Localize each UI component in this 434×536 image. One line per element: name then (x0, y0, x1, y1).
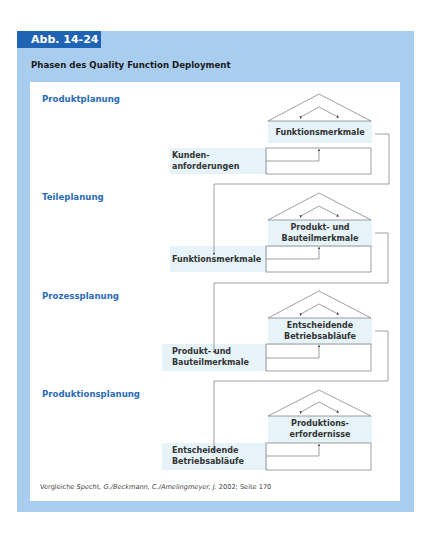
output-label-1: Funktionsmerkmale (268, 127, 372, 138)
input-label-1-line1: Kunden- (172, 150, 210, 161)
input-label-3-line2: Bauteilmerkmale (172, 357, 249, 368)
source-prefix: Vergleiche (40, 483, 77, 491)
input-label-4-line2: Betriebsabläufe (172, 456, 244, 467)
input-label-3-line1: Produkt- und (172, 346, 231, 357)
output-label-3-line1: Entscheidende (268, 320, 372, 331)
output-label-2-line2: Bauteilmerkmale (268, 233, 372, 244)
source-suffix: 2002; Seite 170 (217, 483, 272, 491)
input-label-2: Funktionsmerkmale (172, 254, 261, 265)
output-label-3-line2: Betriebsabläufe (268, 331, 372, 342)
output-label-4-line1: Produktions- (268, 418, 372, 429)
source-authors: Specht, G./Beckmann, C./Amelingmeyer, J. (77, 483, 217, 491)
input-label-4-line1: Entscheidende (172, 445, 238, 456)
input-label-1-line2: anforderungen (172, 161, 239, 172)
output-label-2-line1: Produkt- und (268, 222, 372, 233)
output-label-4-line2: erfordernisse (268, 429, 372, 440)
source-citation: Vergleiche Specht, G./Beckmann, C./Ameli… (40, 483, 271, 491)
